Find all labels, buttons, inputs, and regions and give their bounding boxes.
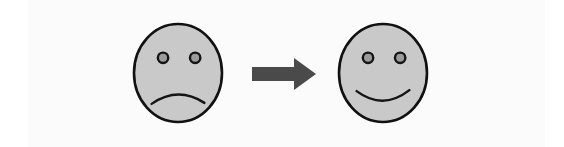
- mood-transformation-illustration: Sad face transforms into happy face: [0, 0, 564, 147]
- happy-face-circle: [339, 24, 427, 122]
- sad-face: [134, 24, 222, 122]
- transition-arrow-icon: [252, 58, 316, 90]
- happy-face-right-eye-icon: [395, 53, 405, 63]
- sad-face-right-eye-icon: [190, 53, 200, 63]
- happy-face: [339, 24, 427, 122]
- sad-face-left-eye-icon: [158, 53, 168, 63]
- arrow-right-shape: [252, 58, 316, 90]
- graphic-canvas: Sad face transforms into happy face: [0, 0, 564, 147]
- sad-face-circle: [134, 24, 222, 122]
- happy-face-left-eye-icon: [363, 53, 373, 63]
